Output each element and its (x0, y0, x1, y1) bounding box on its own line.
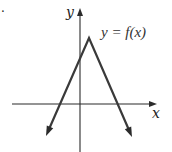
stray-period-mark: . (1, 1, 5, 15)
y-axis-arrowhead (77, 8, 83, 16)
x-axis-label: x (152, 105, 160, 121)
series-group (46, 38, 132, 137)
curve-label: y = f(x) (99, 24, 146, 41)
function-graph: . x y y = f(x) (0, 0, 172, 152)
series-line-0 (48, 38, 129, 131)
series-right-arrowhead (125, 126, 132, 137)
y-axis-label: y (65, 4, 75, 20)
series-left-arrowhead (46, 125, 53, 136)
